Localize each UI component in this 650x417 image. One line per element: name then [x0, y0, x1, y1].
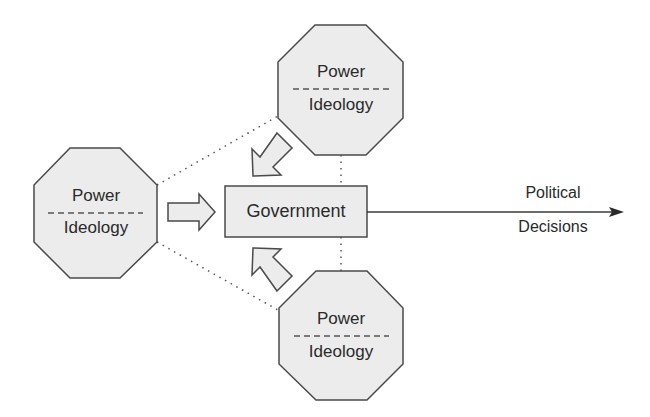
top-octagon — [278, 25, 403, 155]
left-node-power-label: Power — [72, 186, 120, 206]
output-label-line2: Decisions — [518, 218, 587, 236]
left-node-ideology-label: Ideology — [64, 218, 128, 238]
top-node-power-label: Power — [317, 62, 365, 82]
bottom-node-ideology-label: Ideology — [309, 342, 373, 362]
output-label-line1: Political — [525, 184, 580, 202]
government-label: Government — [246, 201, 345, 222]
bottom-node-power-label: Power — [317, 309, 365, 329]
block-arrow-right-icon — [168, 194, 215, 230]
top-node-ideology-label: Ideology — [309, 95, 373, 115]
block-arrow-up-left-icon — [252, 248, 292, 291]
block-arrow-down-left-icon — [252, 133, 292, 176]
